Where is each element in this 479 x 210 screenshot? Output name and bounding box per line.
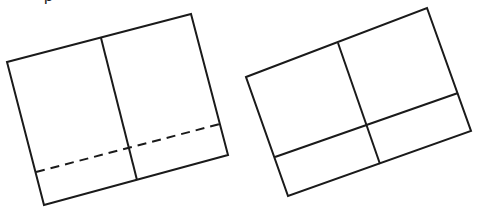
left-rectangle-outline bbox=[7, 14, 228, 205]
diagram-canvas bbox=[0, 0, 479, 210]
right-figure bbox=[246, 8, 471, 196]
left-figure bbox=[7, 14, 228, 205]
left-vertical-divider bbox=[101, 38, 137, 180]
right-horizontal-divider bbox=[275, 93, 458, 157]
right-vertical-divider bbox=[338, 43, 380, 164]
